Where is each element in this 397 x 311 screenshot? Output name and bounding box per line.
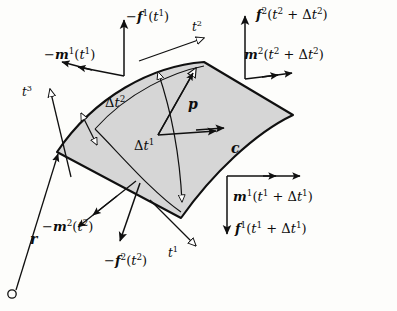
dimension-label-delta-t1: Δt1	[134, 139, 154, 152]
vector-label-m2-t2-dt2: m2(t2 + Δt2)	[244, 48, 324, 61]
vector-label-neg-m1-t1: −m1(t1)	[44, 48, 95, 61]
vector-label-r: r	[30, 232, 37, 246]
vector-label-p: p	[188, 97, 198, 111]
axis-label-t1: t1	[168, 247, 178, 259]
axis-label-t3: t3	[22, 86, 32, 98]
vector-label-m1-t1-dt1: m1(t1 + Δt1)	[233, 190, 313, 203]
axis-t2-line	[139, 38, 204, 61]
axis-t3-line	[50, 89, 71, 177]
dimension-label-delta-t2: Δt2	[105, 96, 125, 109]
vector-label-f1-t1-dt1: f1(t1 + Δt1)	[235, 222, 307, 235]
vector-label-c: c	[231, 141, 240, 155]
vector-label-neg-f2-t2: −f2(t2)	[104, 254, 147, 267]
axis-label-t2: t2	[192, 21, 202, 33]
figure-canvas: t1 t2 t3 −f1(t1) −m1(t1) f2(t2 + Δt2) m2…	[0, 0, 397, 311]
vector-label-f2-t2-dt2: f2(t2 + Δt2)	[256, 8, 328, 21]
vector-label-neg-f1-t1: −f1(t1)	[126, 10, 169, 23]
vector-label-neg-m2-t2: −m2(t2)	[42, 220, 93, 233]
